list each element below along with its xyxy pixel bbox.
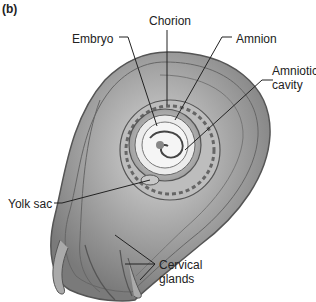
label-cervical-glands-line2: glands (159, 272, 194, 286)
label-cervical-glands-line1: Cervical (159, 258, 202, 272)
label-chorion: Chorion (149, 14, 191, 28)
label-embryo: Embryo (72, 32, 113, 46)
label-amniotic-cavity-line1: Amniotic (272, 64, 316, 78)
label-amnion: Amnion (236, 32, 277, 46)
panel-label: (b) (2, 2, 17, 16)
label-yolk-sac: Yolk sac (8, 197, 52, 211)
label-amniotic-cavity-line2: cavity (272, 78, 303, 92)
